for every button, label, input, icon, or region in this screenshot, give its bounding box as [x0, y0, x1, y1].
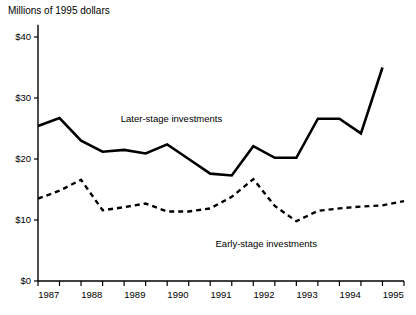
x-tick-label: 1994 [340, 289, 361, 300]
x-tick-label: 1991 [210, 289, 231, 300]
chart-series-group [38, 68, 404, 222]
chart-container: Millions of 1995 dollars $0$10$20$30$40 … [0, 0, 416, 315]
y-tick-label: $30 [15, 92, 31, 103]
annotation-later-stage: Later-stage investments [121, 113, 223, 124]
annotation-early-stage: Early-stage investments [216, 238, 318, 249]
x-tick-label: 1993 [297, 289, 318, 300]
y-tick-label: $40 [15, 31, 31, 42]
x-tick-label: 1987 [38, 289, 59, 300]
y-axis: $0$10$20$30$40 [15, 25, 38, 287]
x-tick-label: 1988 [81, 289, 102, 300]
x-axis: 198719881989199019911992199319941995 [38, 281, 404, 300]
x-tick-label: 1990 [167, 289, 188, 300]
y-tick-label: $10 [15, 214, 31, 225]
x-tick-label: 1995 [383, 289, 404, 300]
chart-plot-area: $0$10$20$30$40 1987198819891990199119921… [0, 0, 416, 315]
series-line-early-stage [38, 179, 404, 221]
x-tick-label: 1989 [124, 289, 145, 300]
y-tick-label: $0 [20, 275, 31, 286]
chart-annotations: Later-stage investmentsEarly-stage inves… [121, 113, 317, 249]
y-tick-label: $20 [15, 153, 31, 164]
x-tick-label: 1992 [253, 289, 274, 300]
